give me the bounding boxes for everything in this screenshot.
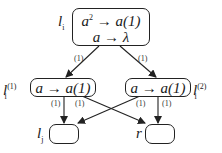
node-label-r: r — [136, 126, 142, 141]
edge-weight-li-li1: (1) — [74, 55, 83, 63]
rule-li2-0: a → a(1) — [131, 80, 186, 96]
node-label-li1: l(1)i — [3, 79, 7, 104]
node-li2: a → a(1) — [125, 78, 191, 97]
node-label-li: li — [58, 14, 64, 35]
edge-weight-li-li2: (1) — [138, 55, 147, 63]
node-li: a2 → a(1) a → λ — [72, 8, 150, 46]
edge-li2-lj — [78, 96, 140, 123]
edge-weight-li2-lj: (1) — [136, 100, 145, 108]
edge-weight-li2-r: (1) — [162, 100, 171, 108]
edge-weight-li1-r: (1) — [75, 100, 84, 108]
rule-li-1: a → λ — [93, 29, 130, 45]
node-label-li2: l(2)i — [193, 79, 197, 104]
rule-li-0: a2 → a(1) — [82, 10, 141, 29]
rule-li1-0: a → a(1) — [36, 80, 91, 96]
node-r — [145, 124, 175, 144]
node-label-lj: lj — [37, 126, 43, 147]
edge-weight-li1-lj: (1) — [51, 100, 60, 108]
node-li1: a → a(1) — [30, 78, 96, 97]
node-lj — [49, 124, 79, 144]
